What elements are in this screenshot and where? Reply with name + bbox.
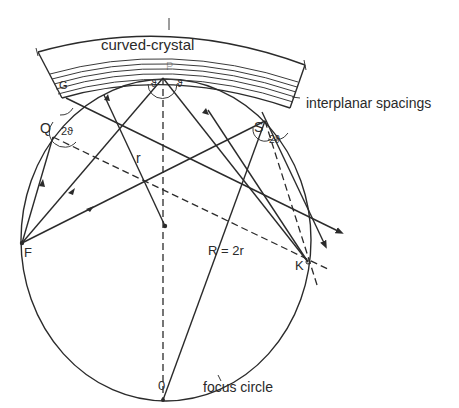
lattice-planes bbox=[50, 59, 300, 108]
crystal-label: curved-crystal bbox=[101, 36, 194, 53]
theta-left-label: ϑ bbox=[151, 78, 157, 89]
point-O-dot bbox=[161, 398, 165, 402]
angle-2theta-S: 2ϑ bbox=[269, 134, 281, 145]
theta-right-label: ϑ bbox=[177, 78, 183, 89]
point-K-label: K bbox=[295, 258, 304, 273]
angle-arcs bbox=[49, 84, 288, 147]
focus-circle-label: focus circle bbox=[203, 379, 273, 395]
point-F-label: F bbox=[24, 245, 32, 260]
radius-R-label: R = 2r bbox=[208, 243, 244, 258]
center-dot bbox=[163, 224, 167, 228]
diagram-canvas: curved-crystal interplanar spacings focu… bbox=[0, 0, 459, 408]
johann-spectrometer-diagram: curved-crystal interplanar spacings focu… bbox=[0, 0, 459, 408]
point-Q-label: Q bbox=[40, 120, 51, 136]
point-G-label: G bbox=[59, 79, 68, 91]
point-S-label: S bbox=[254, 119, 263, 135]
point-O-label: 0 bbox=[158, 378, 165, 393]
angle-2theta-Q: 2ϑ bbox=[61, 125, 73, 137]
spacings-label: interplanar spacings bbox=[306, 95, 431, 111]
normal-Q-K bbox=[53, 137, 330, 270]
point-P-label: P bbox=[166, 60, 173, 72]
radius-r-label: r bbox=[136, 150, 141, 166]
points bbox=[20, 224, 310, 402]
